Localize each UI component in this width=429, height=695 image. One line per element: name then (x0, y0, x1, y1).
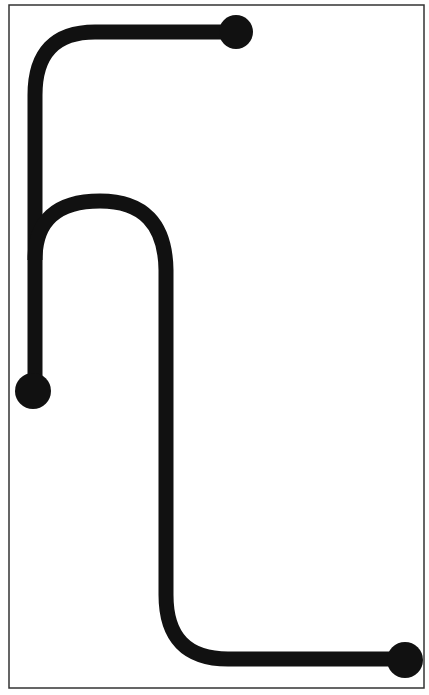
frame-border (9, 5, 424, 688)
track-diagram (0, 0, 429, 695)
bottom-right-endpoint-dot (387, 642, 423, 678)
track-paths (35, 32, 405, 659)
track-endpoints (15, 15, 423, 678)
arch-and-descent-path (35, 201, 405, 659)
left-endpoint-dot (15, 373, 51, 409)
top-endpoint-dot (219, 15, 253, 49)
